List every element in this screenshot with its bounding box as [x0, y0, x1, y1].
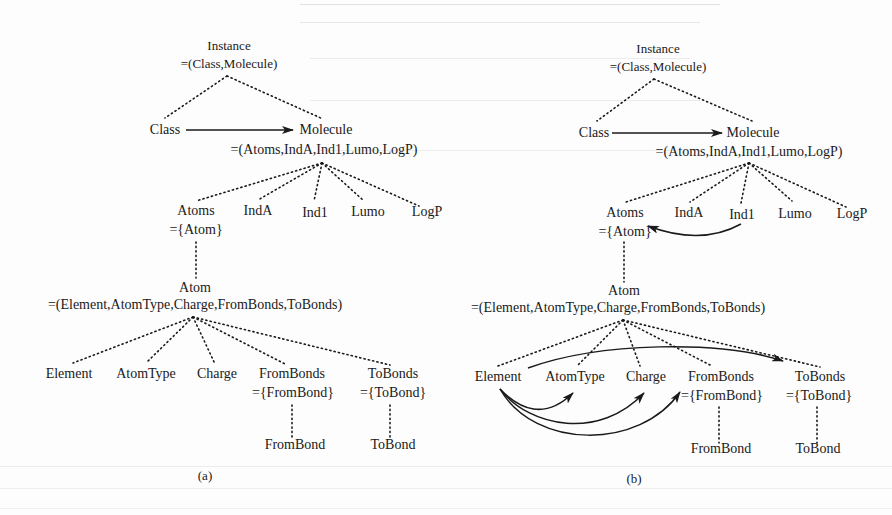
node-element: Element — [46, 366, 93, 382]
node-class: Class — [579, 125, 609, 141]
node-atoms-def: ={Atom} — [169, 222, 222, 238]
node-atoms: Atoms — [606, 205, 643, 221]
node-logp: LogP — [412, 204, 442, 220]
node-molecule-def: =(Atoms,IndA,Ind1,Lumo,LogP) — [656, 144, 843, 160]
node-lumo: Lumo — [778, 206, 811, 222]
node-tobond: ToBond — [796, 441, 841, 457]
node-atom: Atom — [608, 283, 640, 299]
node-tobonds: ToBonds — [368, 366, 418, 382]
node-atoms: Atoms — [177, 203, 214, 219]
panel-a-caption: (a) — [198, 468, 212, 484]
node-tobonds: ToBonds — [795, 369, 845, 385]
node-molecule-def: =(Atoms,IndA,Ind1,Lumo,LogP) — [231, 142, 418, 158]
node-frombonds: FromBonds — [259, 366, 325, 382]
figure-canvas: Instance =(Class,Molecule) Class Molecul… — [0, 0, 892, 515]
node-element: Element — [475, 369, 522, 385]
node-frombonds-def: ={FromBond} — [681, 388, 763, 404]
node-frombonds-def: ={FromBond} — [252, 385, 334, 401]
node-instance-def: =(Class,Molecule) — [181, 56, 278, 72]
node-ind1: Ind1 — [729, 207, 755, 223]
node-atoms-def: ={Atom} — [598, 224, 651, 240]
node-inda: IndA — [675, 205, 704, 221]
node-logp: LogP — [837, 206, 867, 222]
node-instance-def: =(Class,Molecule) — [610, 59, 707, 75]
node-atom: Atom — [179, 280, 211, 296]
node-atom-def: =(Element,AtomType,Charge,FromBonds,ToBo… — [471, 300, 765, 316]
arrow-element-to-atomtype — [500, 389, 573, 409]
panel-b-caption: (b) — [626, 471, 641, 487]
node-atom-def: =(Element,AtomType,Charge,FromBonds,ToBo… — [48, 297, 342, 313]
node-molecule: Molecule — [727, 125, 780, 141]
node-charge: Charge — [626, 369, 666, 385]
node-tobonds-def: ={ToBond} — [786, 388, 852, 404]
node-atomtype: AtomType — [545, 369, 605, 385]
node-inda: IndA — [244, 203, 273, 219]
node-frombond: FromBond — [691, 441, 752, 457]
node-frombonds: FromBonds — [688, 369, 754, 385]
node-molecule: Molecule — [300, 122, 353, 138]
arrow-ind1-to-atoms — [648, 224, 741, 236]
node-frombond: FromBond — [265, 437, 326, 453]
node-instance: Instance — [207, 38, 250, 54]
node-instance: Instance — [636, 41, 679, 57]
node-tobonds-def: ={ToBond} — [360, 385, 426, 401]
node-ind1: Ind1 — [302, 205, 328, 221]
node-class: Class — [150, 122, 180, 138]
node-lumo: Lumo — [351, 204, 384, 220]
arrow-element-to-tobonds — [528, 347, 783, 368]
node-atomtype: AtomType — [116, 366, 176, 382]
diagram-edges — [0, 0, 892, 515]
node-charge: Charge — [197, 366, 237, 382]
node-tobond: ToBond — [371, 437, 416, 453]
